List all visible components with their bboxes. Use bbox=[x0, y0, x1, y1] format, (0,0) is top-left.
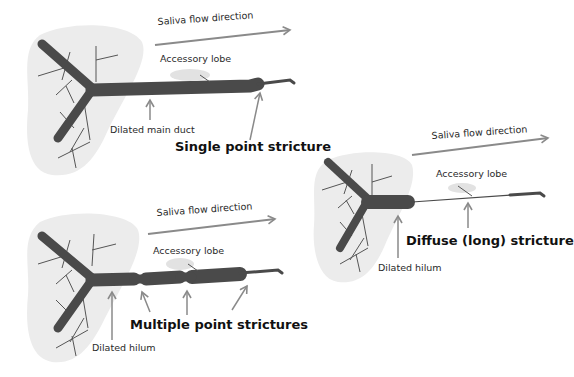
lobe-label-single: Accessory lobe bbox=[160, 53, 231, 64]
lobe-label-diffuse: Accessory lobe bbox=[436, 168, 507, 179]
accessory-lobe bbox=[166, 258, 194, 270]
accessory-lobe bbox=[170, 69, 210, 81]
dilated-hilum-label-diffuse: Dilated hilum bbox=[378, 262, 442, 273]
multiple-stricture-title: Multiple point strictures bbox=[130, 317, 308, 332]
panel-multiple-point-strictures bbox=[27, 214, 282, 363]
stricture-arrow bbox=[250, 93, 260, 140]
stricture-arrow-3 bbox=[232, 286, 247, 310]
stricture-arrow-1 bbox=[142, 292, 150, 312]
flow-arrow bbox=[155, 30, 290, 45]
single-stricture-title: Single point stricture bbox=[175, 139, 331, 154]
panel-diffuse-stricture bbox=[314, 138, 548, 282]
dilated-duct-label: Dilated main duct bbox=[110, 124, 195, 135]
lobe-label-multiple: Accessory lobe bbox=[153, 245, 224, 256]
accessory-lobe bbox=[448, 183, 476, 193]
diffuse-stricture-title: Diffuse (long) stricture bbox=[406, 233, 574, 248]
flow-arrow bbox=[148, 219, 275, 234]
dilated-hilum-label-multiple: Dilated hilum bbox=[92, 342, 156, 353]
